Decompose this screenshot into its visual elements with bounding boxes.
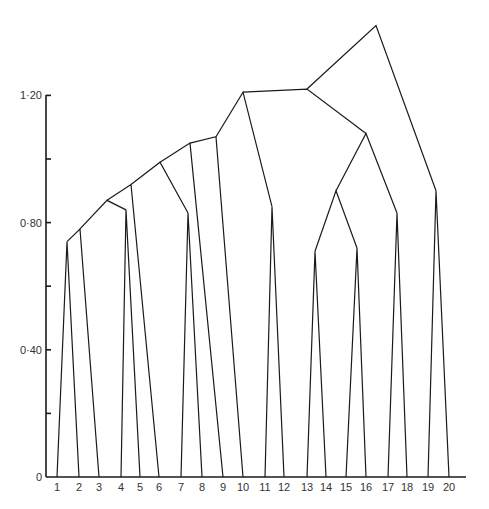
leaf-label: 5 — [137, 481, 143, 493]
branch-n18 — [428, 191, 449, 477]
leaf-label: 12 — [278, 481, 290, 493]
branch-n7 — [131, 162, 188, 213]
leaf-label: 6 — [156, 481, 162, 493]
leaf-label: 15 — [340, 481, 352, 493]
branch-n15 — [388, 213, 407, 477]
leaf-labels: 1234567891011121314151617181920 — [54, 481, 455, 493]
y-tick-label: 1·20 — [20, 89, 42, 101]
leaf-label: 18 — [401, 481, 413, 493]
branch-root — [307, 25, 436, 190]
branch-n10 — [265, 207, 284, 477]
leaf-label: 3 — [96, 481, 102, 493]
leaf-label: 4 — [118, 481, 124, 493]
leaf-label: 9 — [220, 481, 226, 493]
leaf-label: 13 — [301, 481, 313, 493]
branch-n11 — [216, 92, 272, 206]
branch-n13 — [346, 248, 366, 477]
branch-n4 — [80, 200, 126, 229]
branch-n1 — [57, 242, 79, 477]
dendrogram-branches — [57, 25, 449, 477]
branch-n2 — [67, 229, 99, 477]
leaf-label: 2 — [76, 481, 82, 493]
branch-n14 — [315, 191, 357, 251]
leaf-label: 8 — [199, 481, 205, 493]
y-tick-label: 0·40 — [20, 344, 42, 356]
leaf-label: 17 — [382, 481, 394, 493]
leaf-label: 10 — [237, 481, 249, 493]
y-tick-label: 0·80 — [20, 217, 42, 229]
leaf-label: 11 — [259, 481, 270, 493]
branch-n12 — [307, 251, 326, 477]
branch-n5 — [107, 184, 159, 477]
dendrogram-chart: 00·400·801·20 12345678910111213141516171… — [0, 0, 489, 509]
branch-n6 — [181, 213, 202, 477]
branch-n17 — [243, 89, 366, 134]
branch-n9 — [190, 137, 243, 477]
y-tick-label: 0 — [36, 471, 42, 483]
leaf-label: 20 — [443, 481, 455, 493]
leaf-label: 1 — [54, 481, 60, 493]
branch-n16 — [336, 134, 397, 214]
leaf-label: 16 — [360, 481, 372, 493]
leaf-label: 7 — [178, 481, 184, 493]
y-axis: 00·400·801·20 — [20, 89, 51, 483]
leaf-label: 19 — [422, 481, 434, 493]
branch-n8 — [160, 143, 223, 477]
leaf-label: 14 — [320, 481, 332, 493]
